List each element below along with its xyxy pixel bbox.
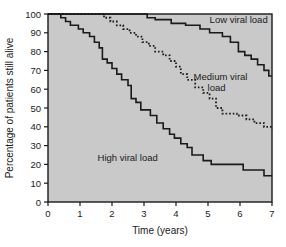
x-tick-label: 3 bbox=[141, 208, 146, 219]
x-tick-label: 6 bbox=[237, 208, 242, 219]
x-tick-label: 2 bbox=[109, 208, 114, 219]
x-tick-label: 1 bbox=[77, 208, 82, 219]
y-tick-label: 10 bbox=[30, 178, 41, 189]
series-label-low-viral-load: Low viral load bbox=[210, 14, 268, 25]
series-label-high-viral-load: High viral load bbox=[98, 152, 158, 163]
x-axis-title: Time (years) bbox=[132, 225, 188, 236]
x-tick-label: 7 bbox=[269, 208, 274, 219]
y-tick-label: 70 bbox=[30, 65, 41, 76]
y-tick-label: 0 bbox=[36, 197, 41, 208]
y-tick-label: 90 bbox=[30, 27, 41, 38]
x-tick-label: 5 bbox=[205, 208, 210, 219]
series-label-medium-viral-load: Medium viral bbox=[194, 71, 248, 82]
y-tick-label: 20 bbox=[30, 159, 41, 170]
x-tick-label: 4 bbox=[173, 208, 178, 219]
x-tick-label: 0 bbox=[45, 208, 50, 219]
survival-chart-figure: 012345670102030405060708090100 Low viral… bbox=[0, 0, 286, 247]
y-tick-label: 50 bbox=[30, 103, 41, 114]
series-label-medium-viral-load-line2: load bbox=[208, 82, 226, 93]
y-axis-title: Percentage of patients still alive bbox=[4, 37, 15, 178]
y-tick-label: 40 bbox=[30, 121, 41, 132]
y-tick-label: 100 bbox=[25, 9, 41, 20]
chart-canvas: 012345670102030405060708090100 Low viral… bbox=[0, 0, 286, 247]
y-tick-label: 30 bbox=[30, 140, 41, 151]
y-tick-label: 60 bbox=[30, 84, 41, 95]
y-tick-label: 80 bbox=[30, 46, 41, 57]
